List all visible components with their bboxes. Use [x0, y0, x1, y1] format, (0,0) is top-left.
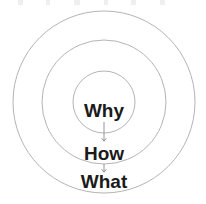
label-why: Why [84, 100, 125, 121]
diagram-canvas: Why How What [0, 0, 206, 204]
label-how: How [84, 143, 124, 164]
golden-circle-diagram: Why How What [0, 0, 206, 204]
label-what: What [81, 171, 128, 192]
